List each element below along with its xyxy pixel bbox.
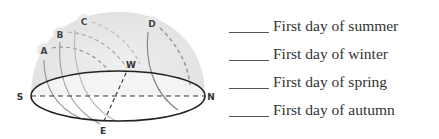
direction-west: W bbox=[126, 60, 136, 70]
direction-north: N bbox=[207, 92, 215, 102]
direction-east: E bbox=[100, 126, 106, 136]
answer-blank[interactable] bbox=[229, 48, 269, 61]
answer-blank[interactable] bbox=[229, 20, 269, 33]
answer-list: First day of summer First day of winter … bbox=[226, 12, 436, 124]
answer-label: First day of autumn bbox=[273, 101, 395, 119]
answer-blank[interactable] bbox=[229, 76, 269, 89]
answer-row-autumn: First day of autumn bbox=[226, 96, 436, 124]
answer-row-spring: First day of spring bbox=[226, 68, 436, 96]
direction-south: S bbox=[17, 92, 23, 102]
sun-path-label-b: B bbox=[57, 30, 64, 40]
answer-label: First day of spring bbox=[273, 73, 387, 91]
answer-label: First day of summer bbox=[273, 17, 398, 35]
sun-path-label-c: C bbox=[81, 17, 88, 27]
sun-path-label-d: D bbox=[148, 19, 155, 29]
answer-label: First day of winter bbox=[273, 45, 388, 63]
answer-blank[interactable] bbox=[229, 104, 269, 117]
sun-path-diagram: A B C D S N W E bbox=[0, 0, 225, 139]
sun-path-label-a: A bbox=[41, 46, 48, 56]
answer-row-summer: First day of summer bbox=[226, 12, 436, 40]
answer-row-winter: First day of winter bbox=[226, 40, 436, 68]
